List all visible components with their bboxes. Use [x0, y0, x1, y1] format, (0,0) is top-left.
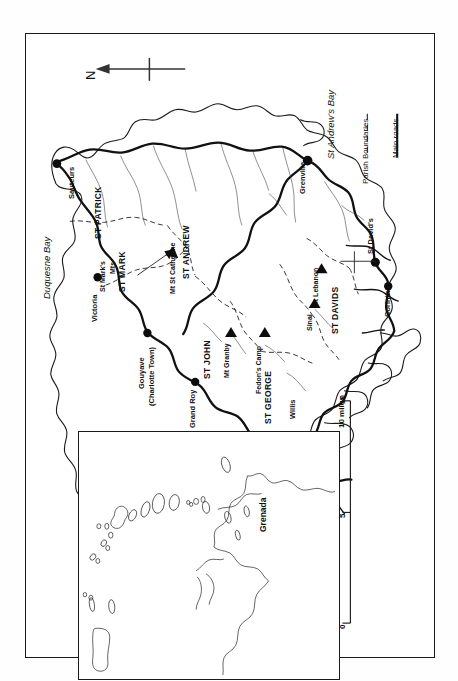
parish-label-st-george: ST GEORGE	[264, 371, 273, 424]
town-label-grand-roy: Grand Roy	[189, 390, 197, 428]
peak-marker-fedons-camp	[259, 327, 271, 337]
inset-map-vector	[79, 432, 339, 679]
inset-map-frame: Grenada	[78, 431, 340, 680]
peak-label-sinai: Sinai	[306, 314, 313, 331]
map-page: N Parish Boundaries Main roads Duquesne …	[0, 0, 458, 681]
town-label-charlotte-town: (Charlotte Town)	[148, 347, 156, 406]
peak-label-mts: Mts	[109, 262, 116, 274]
north-arrow-icon	[96, 58, 186, 81]
inset-island-arc	[83, 456, 250, 671]
peak-marker-mt-granby	[225, 327, 237, 337]
mt-st-catherine-pointer	[137, 249, 173, 275]
dot-sauteurs	[52, 159, 61, 168]
north-arrow-label: N	[84, 71, 97, 80]
inset-label-grenada: Grenada	[259, 498, 268, 533]
town-label-grenville: Grenville	[299, 162, 307, 194]
scale-tick-0: 0	[339, 625, 347, 629]
map-frame: N Parish Boundaries Main roads Duquesne …	[25, 33, 435, 658]
scale-tick-5: 5	[339, 514, 347, 518]
town-label-victoria: Victoria	[91, 295, 99, 322]
scale-tick-10: 10	[339, 395, 347, 404]
legend-item-main-roads: Main roads	[392, 118, 400, 158]
peak-label-mt-lebanon: Mt Lebanon	[312, 268, 319, 307]
legend-item-parish-boundaries: Parish Boundaries	[362, 119, 370, 184]
peak-label-mt-st-catherine: Mt St Catherine	[169, 243, 176, 294]
dot-st-davids	[371, 258, 380, 267]
parish-label-st-andrew: ST ANDREW	[182, 225, 191, 279]
dot-gouyave	[143, 329, 151, 337]
town-label-willis: Willis	[289, 399, 297, 419]
scale-bar	[342, 401, 350, 623]
town-label-corinth: Corinth	[384, 290, 392, 317]
bay-label-duquesne: Duquesne Bay	[42, 237, 52, 299]
bay-label-st-andrews: St Andrew's Bay	[326, 90, 336, 159]
parish-label-st-john: ST JOHN	[203, 340, 212, 379]
parish-label-st-patrick: ST PATRICK	[94, 186, 103, 239]
parish-label-st-mark: ST MARK	[118, 251, 127, 292]
dot-grand-roy	[191, 378, 199, 386]
town-label-gouyave: Gouyave	[138, 357, 146, 389]
parish-label-st-davids: ST DAVIDS	[331, 287, 340, 334]
peak-label-st-marks: St Mark's	[99, 261, 106, 292]
town-label-sauteurs: Sauteurs	[68, 167, 76, 199]
peak-label-fedons-camp: Fedon's Camp	[255, 346, 262, 394]
peak-label-mt-granby: Mt Granby	[223, 343, 230, 378]
town-label-st-davids-town: St David's	[367, 218, 375, 254]
